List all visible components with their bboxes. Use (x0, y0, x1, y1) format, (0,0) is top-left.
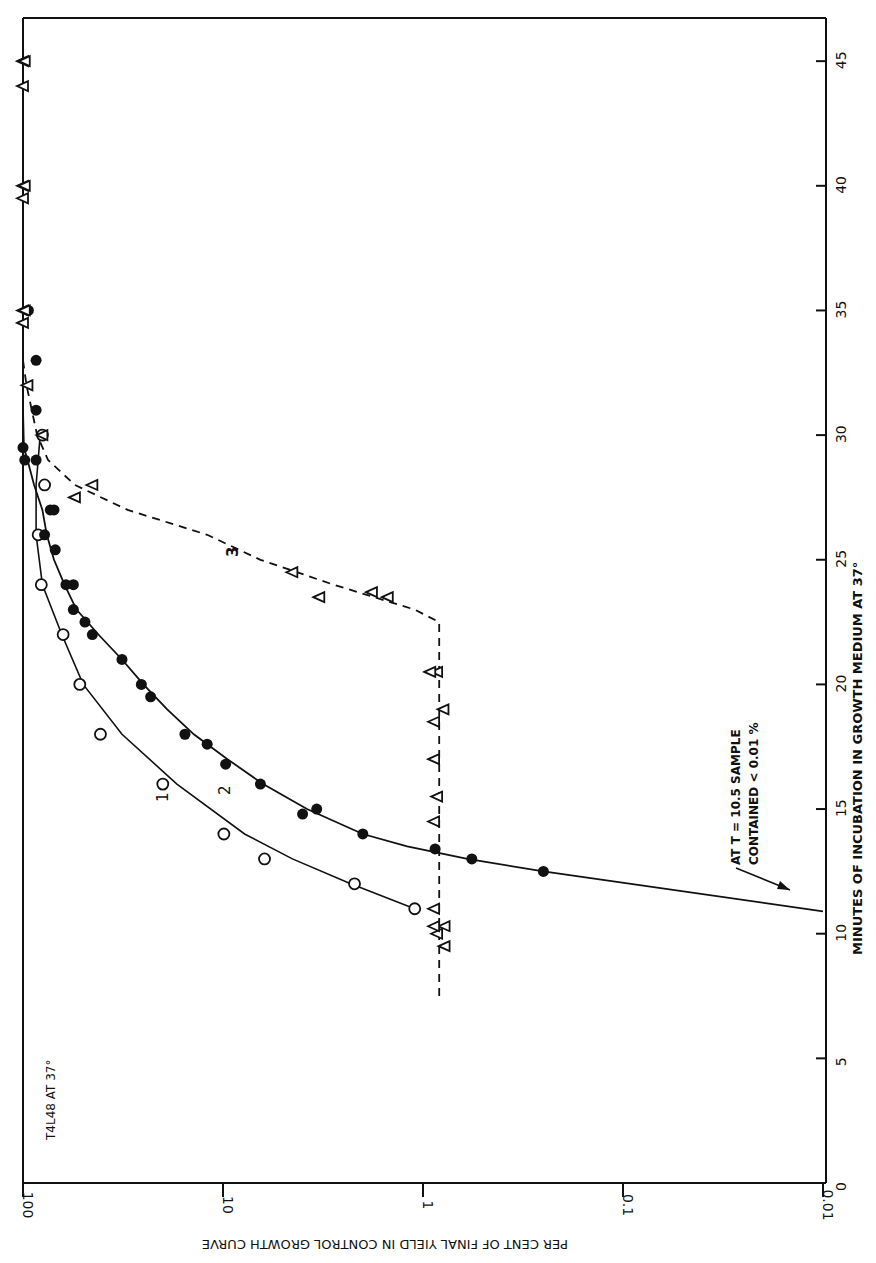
x-axis-title: MINUTES OF INCUBATION IN GROWTH MEDIUM A… (850, 562, 865, 955)
x-tick-label: 15 (833, 799, 849, 817)
filled-circle-point (31, 405, 42, 416)
filled-circle-point (202, 739, 213, 750)
curve-label-3: 3 (224, 547, 242, 557)
triangle-point (313, 592, 324, 602)
open-circle-point (95, 729, 106, 740)
curve-3-line (23, 36, 439, 996)
growth-curve-chart: 0510152025303540451001010.10.01 MINUTES … (0, 0, 876, 1263)
curve-label-1: 1 (154, 792, 172, 802)
filled-circle-point (430, 843, 441, 854)
filled-circle-point (311, 804, 322, 815)
filled-circle-point (19, 455, 30, 466)
filled-circle-point (136, 679, 147, 690)
filled-circle-point (538, 866, 549, 877)
axis-ticks: 0510152025303540451001010.10.01 (20, 51, 849, 1220)
triangle-point (428, 754, 439, 764)
y-tick-label: 1 (420, 1201, 436, 1210)
arrow-head-icon (777, 881, 790, 890)
filled-circle-point (87, 629, 98, 640)
filled-circle-point (31, 455, 42, 466)
filled-circle-point (220, 759, 231, 770)
x-tick-label: 35 (833, 301, 849, 319)
open-circle-point (349, 878, 360, 889)
x-tick-label: 25 (833, 550, 849, 568)
triangle-point (69, 492, 80, 502)
open-circle-point (157, 779, 168, 790)
curve-2-line (23, 311, 823, 912)
annotation-line1: AT T = 10.5 SAMPLE (729, 729, 743, 865)
open-circle-point (58, 629, 69, 640)
filled-circle-point (18, 442, 29, 453)
plot-frame (23, 18, 826, 1183)
filled-circle-point (79, 617, 90, 628)
annotation-line2: CONTAINED < 0.01 % (747, 723, 761, 865)
x-tick-label: 40 (833, 176, 849, 194)
curves (23, 36, 823, 996)
x-tick-label: 10 (833, 924, 849, 942)
filled-circle-point (68, 604, 79, 615)
filled-circle-point (39, 529, 50, 540)
y-tick-label: 0.01 (820, 1189, 836, 1220)
filled-circle-point (466, 853, 477, 864)
filled-circle-point (60, 579, 71, 590)
filled-circle-point (179, 729, 190, 740)
strain-label: T4L48 AT 37° (44, 1060, 58, 1141)
y-tick-label: 100 (20, 1192, 36, 1219)
open-circle-point (259, 853, 270, 864)
filled-circle-point (31, 355, 42, 366)
y-tick-label: 10 (220, 1196, 236, 1214)
triangle-point (431, 792, 442, 802)
open-circle-point (74, 679, 85, 690)
filled-circle-point (50, 544, 61, 555)
x-tick-label: 45 (833, 51, 849, 69)
open-circle-point (39, 479, 50, 490)
open-circle-point (409, 903, 420, 914)
triangle-point (86, 480, 97, 490)
filled-circle-point (255, 779, 266, 790)
x-tick-label: 30 (833, 425, 849, 443)
filled-circle-point (145, 691, 156, 702)
triangle-point (428, 717, 439, 727)
x-tick-label: 5 (833, 1057, 849, 1066)
filled-circle-point (297, 809, 308, 820)
triangle-point (428, 921, 439, 931)
triangle-point (428, 904, 439, 914)
data-points (17, 56, 549, 951)
open-circle-point (36, 579, 47, 590)
y-tick-label: 0.1 (620, 1194, 636, 1216)
triangle-point (382, 592, 393, 602)
open-circle-point (218, 828, 229, 839)
filled-circle-point (48, 504, 59, 515)
filled-circle-point (357, 828, 368, 839)
triangle-point (439, 941, 450, 951)
y-axis-title: PER CENT OF FINAL YIELD IN CONTROL GROWT… (202, 1237, 568, 1252)
filled-circle-point (116, 654, 127, 665)
curve-label-2: 2 (216, 785, 234, 795)
triangle-point (428, 817, 439, 827)
triangle-point (424, 667, 435, 677)
x-tick-label: 20 (833, 675, 849, 693)
